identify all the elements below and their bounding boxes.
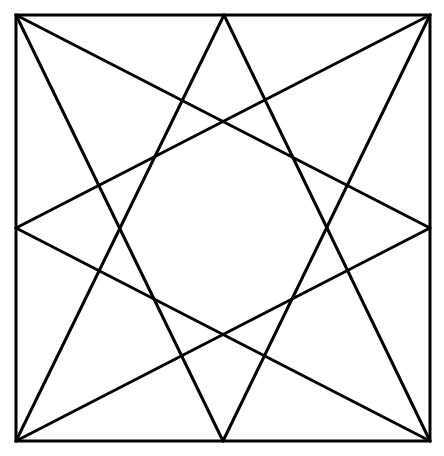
outer-square [16,15,430,441]
diagram-canvas [0,0,444,456]
star-lines [16,15,430,441]
star-in-square-figure [0,0,444,456]
